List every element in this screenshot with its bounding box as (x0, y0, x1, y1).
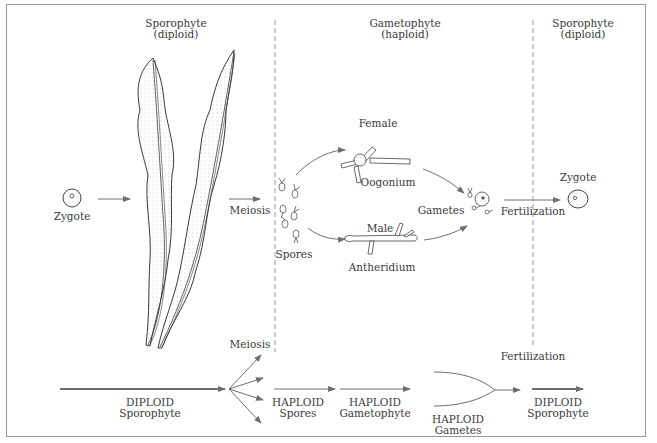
section-subtitle: (diploid) (543, 29, 623, 40)
label-gametes-top: Gametes (416, 205, 466, 216)
stage-name: Sporophyte (110, 408, 190, 419)
label-male: Male (360, 223, 400, 234)
stage-diploid-sporophyte-right: DIPLOID Sporophyte (520, 397, 596, 419)
section-header-sporophyte-left: Sporophyte (diploid) (136, 18, 216, 40)
zygote-left-icon (63, 189, 81, 207)
stage-haploid-gametes: HAPLOID Gametes (428, 414, 488, 436)
label-fertilization-top: Fertilization (500, 206, 566, 217)
spores-icon (279, 178, 300, 243)
section-header-sporophyte-right: Sporophyte (diploid) (543, 18, 623, 40)
stage-name: Gametophyte (338, 408, 412, 419)
label-meiosis-bottom: Meiosis (228, 339, 272, 350)
label-meiosis-top: Meiosis (228, 205, 272, 216)
gametes-icon (468, 188, 493, 214)
label-antheridium: Antheridium (346, 262, 418, 273)
label-zygote-left: Zygote (50, 211, 94, 222)
arrow-female-to-gametes (423, 169, 464, 193)
life-cycle-artwork (0, 0, 657, 443)
stage-haploid-spores: HAPLOID Spores (268, 397, 328, 419)
label-spores: Spores (272, 249, 316, 260)
section-header-gametophyte: Gametophyte (haploid) (360, 18, 450, 40)
fertilization-merge-lines (434, 372, 520, 406)
arrow-spores-to-female (296, 150, 345, 175)
arrow-spores-to-male (308, 228, 345, 239)
arrow-male-to-gametes (424, 226, 467, 240)
label-fertilization-bottom: Fertilization (500, 351, 566, 362)
meiosis-split-arrows (229, 355, 263, 423)
stage-haploid-gametophyte: HAPLOID Gametophyte (338, 397, 412, 419)
stage-name: Gametes (428, 425, 488, 436)
sporophyte-kelp-icon (138, 50, 235, 348)
stage-diploid-sporophyte-left: DIPLOID Sporophyte (110, 397, 190, 419)
label-zygote-right: Zygote (556, 172, 600, 183)
label-female: Female (355, 118, 401, 129)
stage-name: Spores (268, 408, 328, 419)
section-subtitle: (haploid) (360, 29, 450, 40)
zygote-right-icon (568, 190, 588, 208)
label-oogonium: Oogonium (358, 177, 418, 188)
stage-name: Sporophyte (520, 408, 596, 419)
section-subtitle: (diploid) (136, 29, 216, 40)
